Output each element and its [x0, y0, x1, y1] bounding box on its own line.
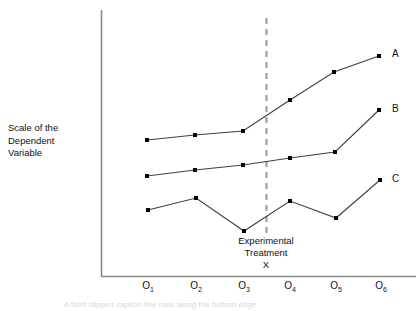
y-axis-label: Scale of the Dependent Variable: [8, 122, 96, 160]
series-b-point-4: [288, 156, 292, 160]
series-b-group: [145, 108, 381, 178]
series-c-point-2: [194, 196, 198, 200]
x-tick-label-4: O4: [275, 280, 305, 293]
series-c-point-1: [146, 208, 150, 212]
series-b-point-6: [377, 108, 381, 112]
series-label-a: A: [392, 49, 399, 59]
x-tick-label-1: O1: [133, 280, 163, 293]
x-tick-label-6: O6: [366, 280, 396, 293]
series-a-point-5: [332, 70, 336, 74]
x-tick-sub-4: 4: [292, 286, 296, 293]
series-b-point-1: [145, 174, 149, 178]
series-c-point-6: [378, 178, 382, 182]
x-tick-base-3: O: [238, 280, 246, 291]
x-tick-base-1: O: [142, 280, 150, 291]
series-label-c: C: [392, 174, 399, 184]
series-c-line: [148, 180, 380, 231]
x-tick-base-2: O: [190, 280, 198, 291]
series-c-point-4: [288, 199, 292, 203]
x-tick-label-5: O5: [321, 280, 351, 293]
x-tick-sub-1: 1: [150, 286, 154, 293]
series-b-line: [147, 110, 379, 176]
series-b-point-5: [333, 150, 337, 154]
series-c-group: [146, 178, 382, 233]
x-tick-base-4: O: [284, 280, 292, 291]
series-b-point-2: [193, 168, 197, 172]
series-a-point-1: [145, 138, 149, 142]
x-tick-base-6: O: [375, 280, 383, 291]
series-b-point-3: [241, 163, 245, 167]
line-chart-figure: Scale of the Dependent Variable A B C O1…: [0, 0, 420, 311]
series-label-b: B: [392, 104, 399, 114]
series-a-point-2: [193, 133, 197, 137]
x-tick-base-5: O: [330, 280, 338, 291]
series-c-point-3: [242, 229, 246, 233]
series-a-point-4: [288, 98, 292, 102]
x-tick-sub-5: 5: [338, 286, 342, 293]
x-tick-sub-6: 6: [383, 286, 387, 293]
x-tick-label-3: O3: [229, 280, 259, 293]
series-c-point-5: [334, 216, 338, 220]
treatment-annotation: Experimental Treatment X: [205, 235, 327, 272]
series-a-point-3: [241, 129, 245, 133]
clipped-caption-strip: A faint clipped caption line runs along …: [64, 301, 410, 309]
x-tick-sub-3: 3: [246, 286, 250, 293]
series-a-group: [145, 54, 381, 142]
x-tick-label-2: O2: [181, 280, 211, 293]
series-a-line: [147, 56, 379, 140]
x-tick-sub-2: 2: [198, 286, 202, 293]
series-a-point-6: [377, 54, 381, 58]
